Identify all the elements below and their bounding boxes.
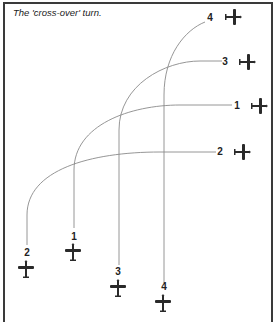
aircraft-3-end-icon xyxy=(237,53,257,71)
aircraft-1-start-icon xyxy=(64,243,82,263)
start-label-3: 3 xyxy=(115,267,121,277)
end-label-3: 3 xyxy=(222,57,228,67)
flight-path-3 xyxy=(119,61,222,265)
end-label-4: 4 xyxy=(207,13,213,23)
flight-path-2 xyxy=(27,152,216,245)
end-label-1: 1 xyxy=(234,101,240,111)
aircraft-1-end-icon xyxy=(249,97,269,115)
aircraft-4-end-icon xyxy=(223,8,243,26)
aircraft-3-start-icon xyxy=(109,279,127,299)
start-label-4: 4 xyxy=(161,282,167,292)
aircraft-2-end-icon xyxy=(232,143,252,161)
start-label-2: 2 xyxy=(24,248,30,258)
flight-path-1 xyxy=(74,105,232,228)
end-label-2: 2 xyxy=(217,147,223,157)
start-label-1: 1 xyxy=(71,232,77,242)
aircraft-4-start-icon xyxy=(154,294,172,314)
aircraft-2-start-icon xyxy=(17,260,35,280)
